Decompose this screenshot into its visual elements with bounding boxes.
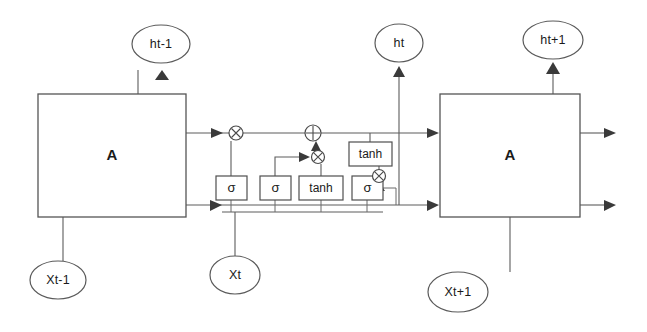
op-forget-multiply[interactable] <box>229 126 243 140</box>
gate-input[interactable]: σ <box>260 176 291 200</box>
wire-gate-input-to-multiply <box>275 157 303 176</box>
arrowhead-h-curr <box>393 66 405 77</box>
node-x-curr[interactable]: Xt <box>210 256 260 294</box>
arrowhead-cell-next-out-upper <box>604 128 616 138</box>
gate-input-label: σ <box>271 180 279 195</box>
arrowhead-cell-next-in-upper <box>427 128 439 138</box>
node-h-next-label: ht+1 <box>540 33 565 47</box>
node-h-next[interactable]: ht+1 <box>523 21 583 59</box>
op-output-multiply[interactable] <box>373 170 386 183</box>
node-x-next[interactable]: Xt+1 <box>428 272 488 312</box>
wire-output-multiply-to-hidden <box>383 188 396 205</box>
arrowhead-hiddenstate-entry <box>210 200 222 211</box>
cell-block-prev[interactable]: A <box>38 94 186 217</box>
node-x-curr-label: Xt <box>229 268 242 282</box>
arrowhead-input-gate-to-multiply <box>299 152 310 162</box>
gate-candidate[interactable]: tanh <box>299 176 343 200</box>
cell-block-next[interactable]: A <box>440 94 580 217</box>
node-h-curr-label: ht <box>394 36 405 50</box>
gate-output-label: σ <box>363 180 371 195</box>
gate-candidate-label: tanh <box>309 181 332 195</box>
arrowhead-cell-next-in-lower <box>427 200 439 211</box>
arrowhead-cellstate-entry <box>211 128 223 138</box>
node-h-prev[interactable]: ht-1 <box>132 25 190 63</box>
op-input-multiply[interactable] <box>312 151 325 164</box>
node-h-curr[interactable]: ht <box>375 24 423 62</box>
arrowhead-h-prev <box>155 70 169 80</box>
arrowhead-h-next <box>546 62 560 74</box>
cell-block-prev-label: A <box>107 146 118 163</box>
gate-cell-tanh[interactable]: tanh <box>349 142 392 166</box>
lstm-diagram-canvas: A A σ σ tanh σ tanh <box>0 0 647 332</box>
node-x-next-label: Xt+1 <box>445 285 472 299</box>
arrowhead-input-multiply-to-add <box>311 141 321 151</box>
arrowhead-cell-next-out-lower <box>604 200 616 211</box>
node-h-prev-label: ht-1 <box>150 37 172 51</box>
cell-block-next-label: A <box>505 146 516 163</box>
node-x-prev-label: Xt-1 <box>46 273 70 287</box>
gate-cell-tanh-label: tanh <box>359 147 382 161</box>
op-cell-add[interactable] <box>305 125 321 141</box>
lstm-diagram-svg: A A σ σ tanh σ tanh <box>0 0 647 332</box>
node-x-prev[interactable]: Xt-1 <box>30 261 86 299</box>
gate-forget[interactable]: σ <box>216 176 247 200</box>
gate-forget-label: σ <box>227 180 235 195</box>
